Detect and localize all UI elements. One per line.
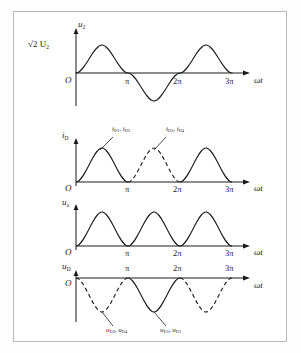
panel-uo-plot — [14, 198, 288, 262]
panel-u2-tick-2pi: 2π — [173, 77, 182, 86]
panel-uo-origin-label: O — [65, 248, 72, 257]
panel-iD-x-axis-label: ωt — [254, 184, 263, 193]
panel-uD-origin-label: O — [65, 279, 72, 288]
panel-uo-tick-pi: π — [125, 249, 129, 258]
panel-iD-tick-3pi: 3π — [225, 185, 234, 194]
panel-uo-tick-3pi: 3π — [225, 249, 234, 258]
panel-u2: u2 √2 U2 O π 2π 3π ωt — [14, 20, 288, 106]
panel-uo-tick-2pi: 2π — [173, 249, 182, 258]
panel-u2-plot — [14, 20, 288, 106]
panel-uD-annotation-dashed: uD2, uD4 — [106, 327, 127, 334]
panel-u2-tick-3pi: 3π — [225, 77, 234, 86]
figure-frame: u2 √2 U2 O π 2π 3π ωt — [13, 11, 287, 342]
panel-uD: uD O π 2π 3π ωt uD2, uD4 uD1, uD3 — [14, 260, 288, 342]
panel-iD-tick-2pi: 2π — [173, 185, 182, 194]
panel-iD-origin-label: O — [65, 184, 72, 193]
panel-u2-tick-pi: π — [125, 77, 129, 86]
panel-u2-amplitude-label: √2 U2 — [28, 40, 49, 49]
panel-iD-tick-pi: π — [125, 185, 129, 194]
panel-uo-x-axis-label: ωt — [254, 248, 263, 257]
panel-uo: uo O π 2π 3π ωt — [14, 198, 288, 262]
panel-u2-x-axis-label: ωt — [254, 76, 263, 85]
panel-iD-y-axis-label: iD — [62, 131, 69, 140]
panel-u2-y-axis-label: u2 — [78, 20, 85, 29]
panel-uD-plot — [14, 260, 288, 342]
panel-iD-annotation-dashed: iD2, iD4 — [166, 126, 184, 133]
panel-uD-tick-3pi: 3π — [225, 264, 234, 273]
panel-uD-tick-2pi: 2π — [173, 264, 182, 273]
caption-strip — [6, 0, 156, 9]
figure-page: u2 √2 U2 O π 2π 3π ωt — [0, 0, 301, 353]
panel-u2-origin-label: O — [65, 76, 72, 85]
panel-uD-tick-pi: π — [125, 264, 129, 273]
panel-uD-x-axis-label: ωt — [254, 281, 263, 290]
panel-uD-y-axis-label: uD — [62, 262, 71, 271]
panel-iD-annotation-solid: iD1, iD3 — [112, 126, 130, 133]
panel-uD-annotation-solid: uD1, uD3 — [160, 327, 181, 334]
panel-uo-y-axis-label: uo — [62, 198, 69, 207]
panel-iD-plot — [14, 120, 288, 198]
panel-iD: iD iD1, iD3 iD2, iD4 O π 2π 3π ωt — [14, 120, 288, 198]
